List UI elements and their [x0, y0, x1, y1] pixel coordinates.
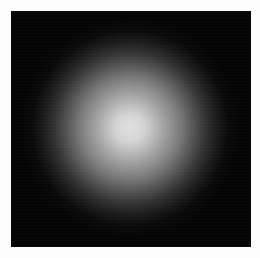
- radial-glow: [11, 11, 251, 247]
- black-plate: [11, 11, 251, 247]
- image-canvas: [0, 0, 260, 258]
